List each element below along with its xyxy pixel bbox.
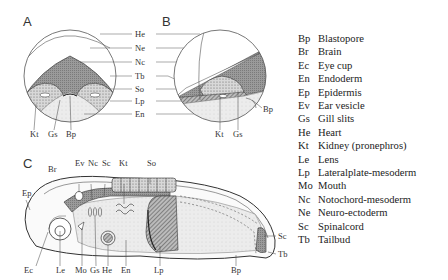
panel-c-label-lp: Lp xyxy=(154,265,163,275)
legend-term: Endoderm xyxy=(318,72,362,85)
legend-row: LeLens xyxy=(298,153,416,166)
legend-row: NcNotochord-mesoderm xyxy=(298,193,416,206)
legend-abbr: En xyxy=(298,72,318,85)
legend-term: Ear vesicle xyxy=(318,99,365,112)
legend-row: MoMouth xyxy=(298,179,416,192)
legend-row: EnEndoderm xyxy=(298,72,416,85)
legend-row: NeNeuro-ectoderm xyxy=(298,206,416,219)
panel-c-label-mo: Mo xyxy=(75,265,87,275)
panel-a-label-kt: Kt xyxy=(30,129,39,139)
embryo-panel-c xyxy=(25,176,275,259)
panel-c-label-ep: Ep xyxy=(22,188,31,198)
legend-term: Kidney (pronephros) xyxy=(318,139,407,152)
legend-row: KtKidney (pronephros) xyxy=(298,139,416,152)
embryo-panel-a xyxy=(20,28,120,130)
abbreviation-legend: BpBlastopore BrBrain EcEye cup EnEndoder… xyxy=(298,32,416,247)
legend-term: Eye cup xyxy=(318,59,352,72)
panel-c-label-kt: Kt xyxy=(119,158,128,168)
legend-abbr: Br xyxy=(298,45,318,58)
legend-row: LpLateralplate-mesoderm xyxy=(298,166,416,179)
panel-c-label-so: So xyxy=(147,158,156,168)
legend-abbr: Gs xyxy=(298,112,318,125)
legend-term: Gill slits xyxy=(318,112,354,125)
legend-row: BpBlastopore xyxy=(298,32,416,45)
legend-abbr: Le xyxy=(298,153,318,166)
center-label-he: He xyxy=(135,29,145,39)
legend-row: HeHeart xyxy=(298,126,416,139)
somites xyxy=(112,178,176,192)
panel-a-label-gs: Gs xyxy=(48,129,57,139)
legend-row: EpEpidermis xyxy=(298,86,416,99)
panel-c-label-nc: Nc xyxy=(88,158,98,168)
panel-c-label-en: En xyxy=(121,265,131,275)
panel-a-label-bp: Bp xyxy=(66,129,76,139)
panel-c-label-he: He xyxy=(102,265,112,275)
center-label-nc: Nc xyxy=(135,57,145,67)
legend-abbr: He xyxy=(298,126,318,139)
center-label-ne: Ne xyxy=(135,43,145,53)
legend-term: Heart xyxy=(318,126,342,139)
panel-c-label-br: Br xyxy=(48,164,57,174)
legend-abbr: Ec xyxy=(298,59,318,72)
legend-abbr: Kt xyxy=(298,139,318,152)
embryo-panel-b xyxy=(170,27,270,130)
legend-row: ScSpinalcord xyxy=(298,220,416,233)
panel-b-label-gs: Gs xyxy=(233,129,242,139)
panel-c-label-tb: Tb xyxy=(278,249,287,259)
panel-c-label-ec: Ec xyxy=(24,265,33,275)
legend-row: GsGill slits xyxy=(298,112,416,125)
legend-term: Blastopore xyxy=(318,32,364,45)
legend-term: Spinalcord xyxy=(318,220,364,233)
legend-term: Lateralplate-mesoderm xyxy=(318,166,416,179)
panel-label-b: B xyxy=(162,14,171,29)
panel-c-label-sc-right: Sc xyxy=(278,231,287,241)
legend-term: Notochord-mesoderm xyxy=(318,193,411,206)
center-label-so: So xyxy=(135,84,144,94)
center-label-lp: Lp xyxy=(135,96,144,106)
legend-abbr: Bp xyxy=(298,32,318,45)
panel-c-label-ev: Ev xyxy=(75,158,85,168)
legend-term: Epidermis xyxy=(318,86,362,99)
legend-abbr: Sc xyxy=(298,220,318,233)
panel-b-label-kt: Kt xyxy=(215,129,224,139)
legend-abbr: Lp xyxy=(298,166,318,179)
legend-term: Lens xyxy=(318,153,339,166)
legend-abbr: Mo xyxy=(298,179,318,192)
legend-term: Tailbud xyxy=(318,233,350,246)
panel-c-label-bp: Bp xyxy=(231,265,241,275)
panel-label-c: C xyxy=(23,156,32,171)
legend-term: Mouth xyxy=(318,179,346,192)
center-label-tb: Tb xyxy=(135,71,144,81)
panel-c-label-sc: Sc xyxy=(102,158,111,168)
panel-b-label-bp: Bp xyxy=(263,104,273,114)
panel-label-a: A xyxy=(23,14,32,29)
center-label-en: En xyxy=(135,109,145,119)
legend-term: Neuro-ectoderm xyxy=(318,206,387,219)
legend-abbr: Ne xyxy=(298,206,318,219)
legend-row: EvEar vesicle xyxy=(298,99,416,112)
legend-abbr: Ev xyxy=(298,99,318,112)
legend-row: EcEye cup xyxy=(298,59,416,72)
legend-row: TbTailbud xyxy=(298,233,416,246)
legend-row: BrBrain xyxy=(298,45,416,58)
panel-c-label-gs: Gs xyxy=(90,265,99,275)
legend-abbr: Nc xyxy=(298,193,318,206)
legend-abbr: Ep xyxy=(298,86,318,99)
legend-term: Brain xyxy=(318,45,342,58)
panel-c-label-le: Le xyxy=(56,265,65,275)
legend-abbr: Tb xyxy=(298,233,318,246)
